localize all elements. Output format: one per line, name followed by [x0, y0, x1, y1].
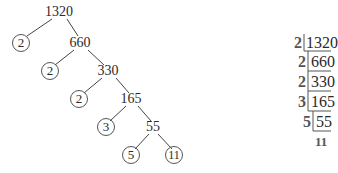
prime-circle-2: 2: [12, 34, 30, 52]
tree-node-1320: 1320: [45, 4, 73, 20]
prime-circle-11: 11: [165, 146, 183, 164]
tree-node-55: 55: [146, 119, 160, 135]
ladder-dividend: 330: [311, 73, 335, 91]
tree-node-165: 165: [121, 91, 142, 107]
ladder-dividend: 660: [311, 53, 335, 71]
ladder-final-quotient: 11: [315, 133, 327, 151]
ladder-dividend: 55: [316, 113, 332, 131]
ladder-divisor: 2: [292, 53, 306, 71]
ladder-dividend: 165: [311, 93, 335, 111]
prime-circle-2: 2: [70, 90, 88, 108]
tree-node-330: 330: [98, 63, 119, 79]
tree-node-660: 660: [70, 35, 91, 51]
prime-circle-5: 5: [122, 146, 140, 164]
ladder-dividend: 1320: [306, 34, 338, 52]
ladder-divisor: 2: [292, 73, 306, 91]
ladder-divisor: 5: [297, 113, 311, 131]
ladder-divisor: 2: [288, 34, 302, 52]
prime-circle-3: 3: [97, 118, 115, 136]
ladder-divisor: 3: [292, 93, 306, 111]
prime-circle-2: 2: [41, 62, 59, 80]
